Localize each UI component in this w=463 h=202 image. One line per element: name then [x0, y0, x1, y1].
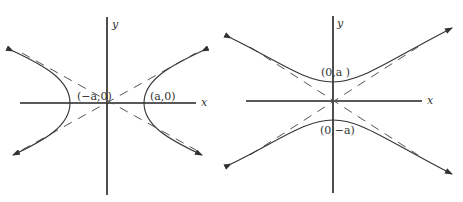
vertex-right-label: (a,0)	[150, 90, 176, 103]
x-axis-label: x	[201, 96, 208, 109]
vertex-left-label: (−a,0)	[77, 90, 112, 103]
y-axis-label: y	[111, 18, 119, 31]
x-axis-label: x	[427, 94, 434, 107]
vertex-bottom-label: (0,−a)	[320, 124, 355, 137]
figure-horizontal-hyperbola: y x (−a,0) (a,0)	[13, 17, 208, 195]
figure-vertical-hyperbola: y x (0,a ) (0,−a)	[231, 16, 452, 193]
vertex-top-label: (0,a )	[321, 66, 350, 79]
hyperbola-diagrams: y x (−a,0) (a,0) y x (0,a ) (0,−a)	[0, 0, 463, 202]
y-axis-label: y	[336, 17, 344, 30]
